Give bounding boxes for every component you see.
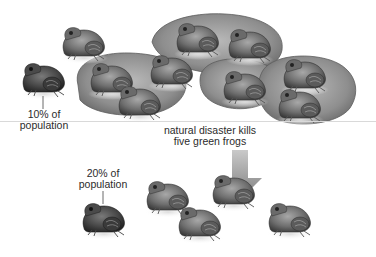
label-20-percent: 20% of population xyxy=(77,168,129,190)
frog-bottom-2 xyxy=(176,208,224,244)
frog-brown-top xyxy=(20,64,68,100)
label-10-percent: 10% of population xyxy=(18,109,70,131)
frog-top-1 xyxy=(60,28,108,64)
label-10-percent-line2: population xyxy=(18,120,70,131)
event-caption-line2: five green frogs xyxy=(150,136,270,147)
frog-bottom-4 xyxy=(266,204,314,240)
bottleneck-diagram: 10% of population natural disaster kills… xyxy=(0,0,376,257)
frog-brown-bottom xyxy=(80,204,128,240)
event-caption: natural disaster kills five green frogs xyxy=(150,125,270,147)
label-20-percent-line2: population xyxy=(77,179,129,190)
